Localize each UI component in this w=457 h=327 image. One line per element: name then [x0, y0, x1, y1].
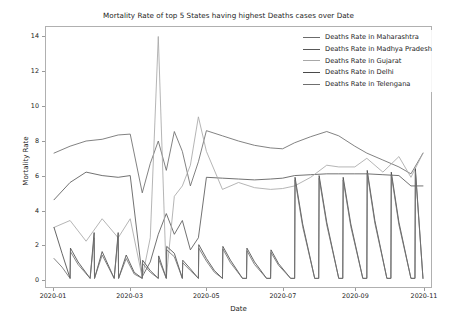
x-tick-mark	[53, 288, 54, 291]
x-tick-label: 2020-05	[193, 292, 220, 300]
series-line	[54, 169, 423, 279]
x-tick-mark	[424, 288, 425, 291]
legend-item[interactable]: Deaths Rate in Madhya Pradesh	[303, 44, 432, 56]
chart-title: Mortality Rate of top 5 States having hi…	[0, 11, 457, 20]
x-tick-mark	[206, 288, 207, 291]
x-tick-label: 2020-07	[269, 292, 296, 300]
y-tick-label: 4	[0, 207, 39, 215]
series-line	[54, 131, 423, 193]
chart-legend: Deaths Rate in MaharashtraDeaths Rate in…	[300, 30, 435, 92]
y-tick-label: 2	[0, 241, 39, 249]
legend-item[interactable]: Deaths Rate in Delhi	[303, 67, 432, 79]
x-tick-label: 2020-03	[116, 292, 143, 300]
legend-item-label: Deaths Rate in Telengana	[325, 81, 410, 88]
legend-line-icon	[303, 49, 320, 50]
y-tick-label: 12	[0, 67, 39, 75]
legend-item[interactable]: Deaths Rate in Gujarat	[303, 55, 432, 67]
x-tick-mark	[355, 288, 356, 291]
x-tick-label: 2020-01	[40, 292, 67, 300]
legend-item-label: Deaths Rate in Delhi	[325, 69, 394, 76]
series-line	[54, 172, 423, 277]
y-tick-label: 6	[0, 172, 39, 180]
x-tick-label: 2020-11	[411, 292, 438, 300]
series-line	[54, 171, 423, 278]
chart-figure: Mortality Rate of top 5 States having hi…	[0, 0, 457, 327]
legend-item[interactable]: Deaths Rate in Telengana	[303, 78, 432, 90]
y-axis-label: Mortality Rate	[22, 101, 30, 221]
legend-line-icon	[303, 37, 320, 38]
x-tick-mark	[130, 288, 131, 291]
y-tick-label: 10	[0, 102, 39, 110]
x-tick-label: 2020-09	[342, 292, 369, 300]
legend-item-label: Deaths Rate in Gujarat	[325, 58, 401, 65]
legend-item[interactable]: Deaths Rate in Maharashtra	[303, 32, 432, 44]
legend-line-icon	[303, 60, 320, 61]
legend-item-label: Deaths Rate in Madhya Pradesh	[325, 46, 432, 53]
legend-line-icon	[303, 72, 320, 73]
y-tick-label: 8	[0, 137, 39, 145]
legend-line-icon	[303, 84, 320, 85]
legend-item-label: Deaths Rate in Maharashtra	[325, 34, 419, 41]
x-tick-mark	[283, 288, 284, 291]
x-axis-label: Date	[45, 305, 432, 313]
y-tick-label: 14	[0, 32, 39, 40]
y-tick-label: 0	[0, 276, 39, 284]
